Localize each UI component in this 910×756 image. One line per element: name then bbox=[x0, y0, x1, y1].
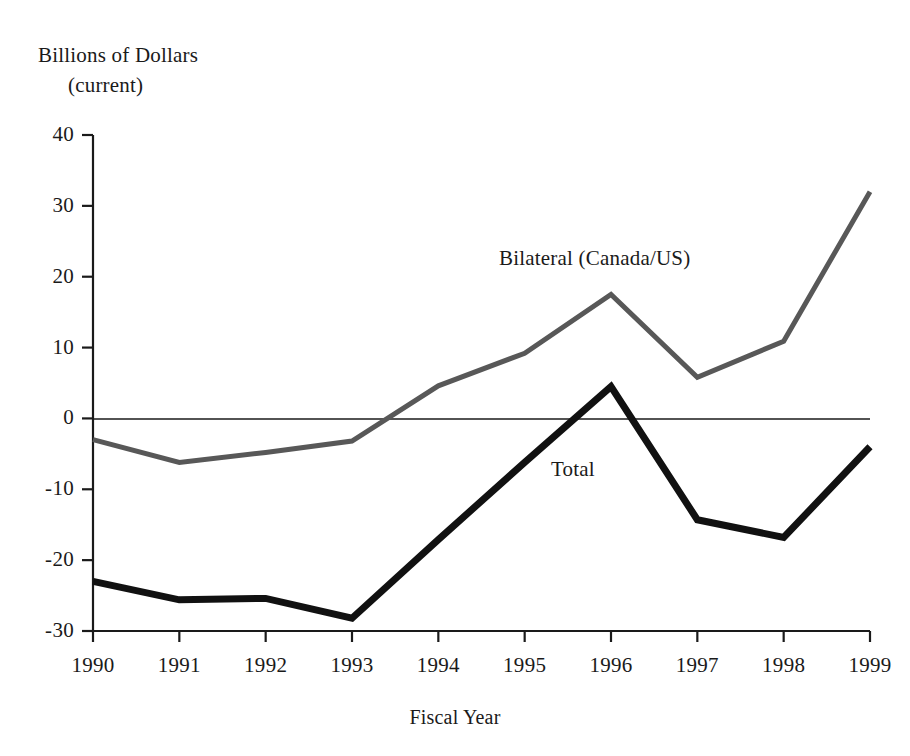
x-axis-tick-label: 1995 bbox=[482, 655, 568, 676]
y-axis-title: Billions of Dollars (current) bbox=[38, 40, 198, 101]
y-axis-title-line2: (current) bbox=[38, 70, 198, 100]
x-axis-tick-label: 1997 bbox=[654, 655, 740, 676]
y-axis-tick-label: 10 bbox=[18, 337, 74, 358]
series-line-bilateral bbox=[93, 192, 870, 463]
series-line-total bbox=[93, 387, 870, 619]
chart-container: Billions of Dollars (current) 403020100-… bbox=[0, 0, 910, 756]
y-axis-tick-label: 30 bbox=[18, 195, 74, 216]
x-axis-tick-label: 1996 bbox=[568, 655, 654, 676]
x-axis-ticks bbox=[93, 631, 870, 642]
y-axis-tick-label: 0 bbox=[18, 407, 74, 428]
x-axis-tick-label: 1993 bbox=[309, 655, 395, 676]
x-axis-tick-label: 1992 bbox=[223, 655, 309, 676]
series-label-bilateral: Bilateral (Canada/US) bbox=[499, 246, 690, 271]
y-axis-tick-label: 20 bbox=[18, 266, 74, 287]
x-axis-tick-label: 1998 bbox=[741, 655, 827, 676]
y-axis-title-line1: Billions of Dollars bbox=[38, 40, 198, 70]
x-axis-tick-label: 1999 bbox=[827, 655, 910, 676]
x-axis-tick-label: 1990 bbox=[50, 655, 136, 676]
y-axis-tick-label: -10 bbox=[18, 478, 74, 499]
series-label-total: Total bbox=[551, 457, 595, 482]
x-axis-title: Fiscal Year bbox=[0, 706, 910, 729]
data-series-layer bbox=[93, 192, 870, 619]
plot-area bbox=[0, 0, 910, 756]
y-axis-tick-label: -30 bbox=[18, 620, 74, 641]
x-axis-tick-label: 1994 bbox=[395, 655, 481, 676]
y-axis-tick-label: -20 bbox=[18, 549, 74, 570]
axis-lines bbox=[93, 135, 870, 631]
y-axis-tick-label: 40 bbox=[18, 124, 74, 145]
y-axis-ticks bbox=[82, 135, 93, 631]
x-axis-tick-label: 1991 bbox=[136, 655, 222, 676]
